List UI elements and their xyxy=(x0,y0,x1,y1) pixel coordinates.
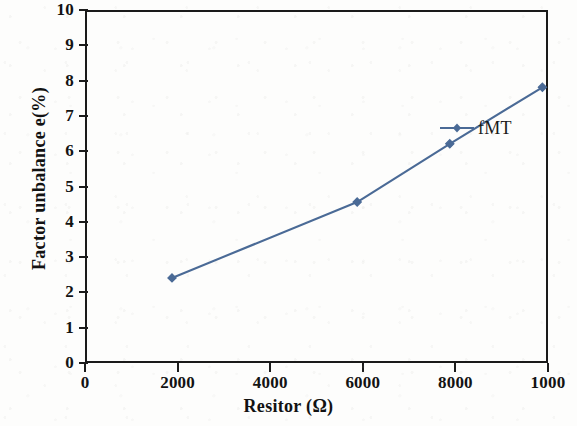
legend-label-fmt: fMT xyxy=(478,119,512,137)
y-axis-tick-label: 4 xyxy=(44,213,74,230)
y-axis-tick-label: 6 xyxy=(44,142,74,159)
data-point-marker xyxy=(168,274,176,282)
x-axis-title: Resitor (Ω) xyxy=(0,396,577,417)
data-series-layer xyxy=(172,22,577,375)
y-axis-tick-label: 9 xyxy=(44,36,74,53)
x-axis-tick-label: 1000 xyxy=(488,374,577,391)
legend: fMT xyxy=(439,119,512,137)
y-axis-tick-label: 10 xyxy=(44,1,74,18)
y-axis-tick-label: 8 xyxy=(44,72,74,89)
y-axis-tick-label: 0 xyxy=(44,354,74,371)
y-axis-tick-label: 3 xyxy=(44,248,74,265)
chart-figure: Factor unbalance e(%) Resitor (Ω) 012345… xyxy=(0,0,577,426)
y-axis-tick-label: 5 xyxy=(44,178,74,195)
series-line-fmt xyxy=(172,87,542,278)
y-axis-tick-label: 7 xyxy=(44,107,74,124)
y-axis-tick-label: 1 xyxy=(44,319,74,336)
legend-marker-icon xyxy=(439,121,475,135)
plot-area: fMT xyxy=(85,10,548,363)
series-markers-fmt xyxy=(168,83,547,282)
y-axis-tick-label: 2 xyxy=(44,283,74,300)
x-axis-tick-mark xyxy=(84,363,86,372)
